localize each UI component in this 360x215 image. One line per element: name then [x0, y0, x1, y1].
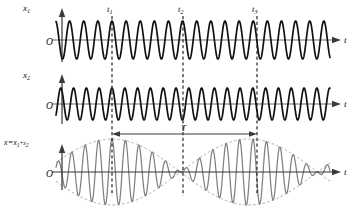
- panel-x1-t-label: t: [344, 35, 347, 45]
- panel-x1-x-axis-arrowhead: [59, 8, 65, 17]
- panel-x2-y-label: x2: [22, 70, 30, 81]
- panel-x2-x-axis-arrowhead: [59, 74, 65, 83]
- panel-x1: x1 O t: [22, 3, 347, 62]
- period-arrow-head-left: [112, 131, 120, 137]
- period-annotation: T: [112, 123, 257, 137]
- marker-t2-label: t2: [178, 4, 183, 15]
- panel-x2: x2 O t: [22, 70, 347, 124]
- panel-sum-t-label: t: [344, 167, 347, 177]
- panel-x1-origin-label: O: [46, 37, 53, 47]
- panel-sum: x=x1+x2 O t: [3, 138, 347, 205]
- panel-sum-origin-label: O: [46, 169, 53, 179]
- panel-x2-t-label: t: [344, 99, 347, 109]
- panel-x2-origin-label: O: [46, 101, 53, 111]
- panel-sum-t-axis-arrowhead: [332, 169, 341, 175]
- panel-sum-y-label: x=x1+x2: [3, 138, 29, 148]
- panel-x1-y-label: x1: [22, 3, 30, 14]
- panel-x2-t-axis-arrowhead: [332, 101, 341, 107]
- figure-svg: x1 O t x2 O t x=x1+x2 O t: [0, 0, 360, 215]
- panel-x1-t-axis-arrowhead: [332, 37, 341, 43]
- period-label: T: [181, 123, 187, 133]
- marker-t3-label: t3: [252, 4, 257, 15]
- panel-sum-x-axis-arrowhead: [59, 144, 65, 153]
- beat-phenomenon-figure: x1 O t x2 O t x=x1+x2 O t: [0, 0, 360, 215]
- period-arrow-head-right: [249, 131, 257, 137]
- marker-t1-label: t1: [107, 4, 112, 15]
